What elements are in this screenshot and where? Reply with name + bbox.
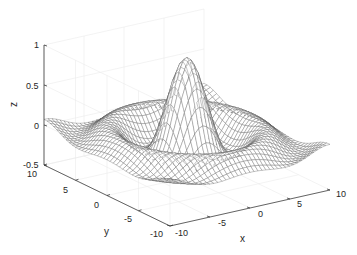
z-axis-label: z — [8, 102, 19, 107]
z-tick-1: 1 — [34, 40, 39, 50]
x-tick-neg5: -5 — [218, 218, 226, 228]
y-tick-neg5: -5 — [124, 214, 132, 224]
z-tick-0: 0 — [34, 121, 39, 131]
sinc-mesh-surface — [44, 58, 330, 185]
x-tick-5: 5 — [297, 199, 302, 209]
z-tick-0.5: 0.5 — [26, 81, 39, 91]
x-tick-0: 0 — [258, 209, 263, 219]
y-tick-5: 5 — [63, 185, 68, 195]
x-axis-label: x — [240, 233, 245, 244]
x-tick-neg10: -10 — [175, 228, 188, 238]
y-axis-label: y — [104, 226, 109, 237]
y-tick-neg10: -10 — [150, 229, 163, 239]
x-tick-10: 10 — [336, 189, 346, 199]
y-tick-0: 0 — [94, 200, 99, 210]
mesh-plot-figure: 1 0.5 0 -0.5 z 10 5 0 -5 -10 y -10 -5 0 … — [0, 0, 357, 255]
y-tick-10: 10 — [27, 169, 37, 179]
mesh-plot — [0, 0, 357, 255]
